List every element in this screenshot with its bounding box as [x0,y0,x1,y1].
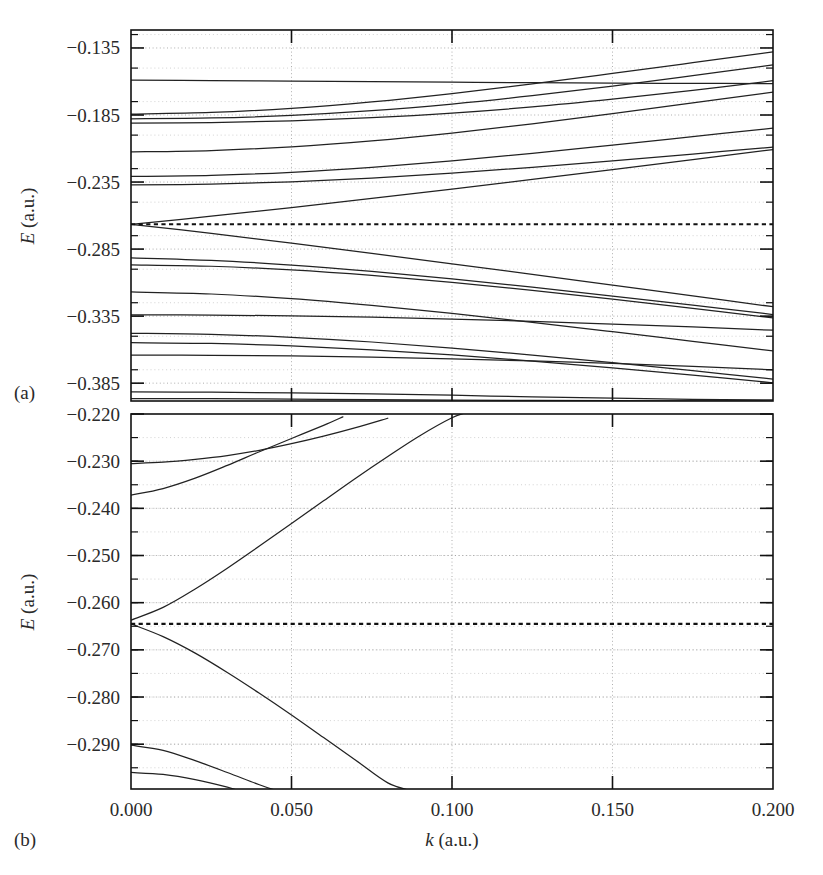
panel-a-y-axis-symbol: E [17,232,38,245]
panel-b-label: (b) [14,829,36,851]
y-tick-label: −0.240 [67,498,120,519]
x-tick-label: 0.200 [752,799,795,820]
panel-b-y-axis-symbol: E [17,618,38,631]
panel-b-y-axis-title: E (a.u.) [17,574,39,631]
figure-root: −0.135−0.185−0.235−0.285−0.335−0.385 E (… [0,0,823,875]
y-tick-label: −0.385 [67,373,120,394]
y-tick-label: −0.270 [67,639,120,660]
x-tick-label: 0.000 [110,799,153,820]
y-tick-label: −0.285 [67,239,120,260]
y-tick-label: −0.250 [67,545,120,566]
y-tick-label: −0.185 [67,105,120,126]
x-tick-label: 0.050 [270,799,313,820]
y-tick-label: −0.260 [67,592,120,613]
y-tick-label: −0.230 [67,451,120,472]
y-tick-label: −0.290 [67,734,120,755]
x-tick-label: 0.100 [431,799,474,820]
panel-b-x-axis-title: k (a.u.) [425,829,478,851]
x-tick-label: 0.150 [591,799,634,820]
y-tick-label: −0.220 [67,404,120,425]
y-tick-label: −0.335 [67,306,120,327]
band-structure-figure: −0.135−0.185−0.235−0.285−0.335−0.385 E (… [0,0,823,875]
y-tick-label: −0.235 [67,172,120,193]
panel-a-y-axis-title: E (a.u.) [17,188,39,245]
y-tick-label: −0.135 [67,37,120,58]
panel-a-label: (a) [14,382,35,404]
y-tick-label: −0.280 [67,687,120,708]
panel-a-y-axis-units: (a.u.) [17,188,39,233]
panel-b-y-axis-units: (a.u.) [17,574,39,619]
panel-b-x-axis-units: (a.u.) [434,829,479,851]
figure-background [0,0,823,875]
